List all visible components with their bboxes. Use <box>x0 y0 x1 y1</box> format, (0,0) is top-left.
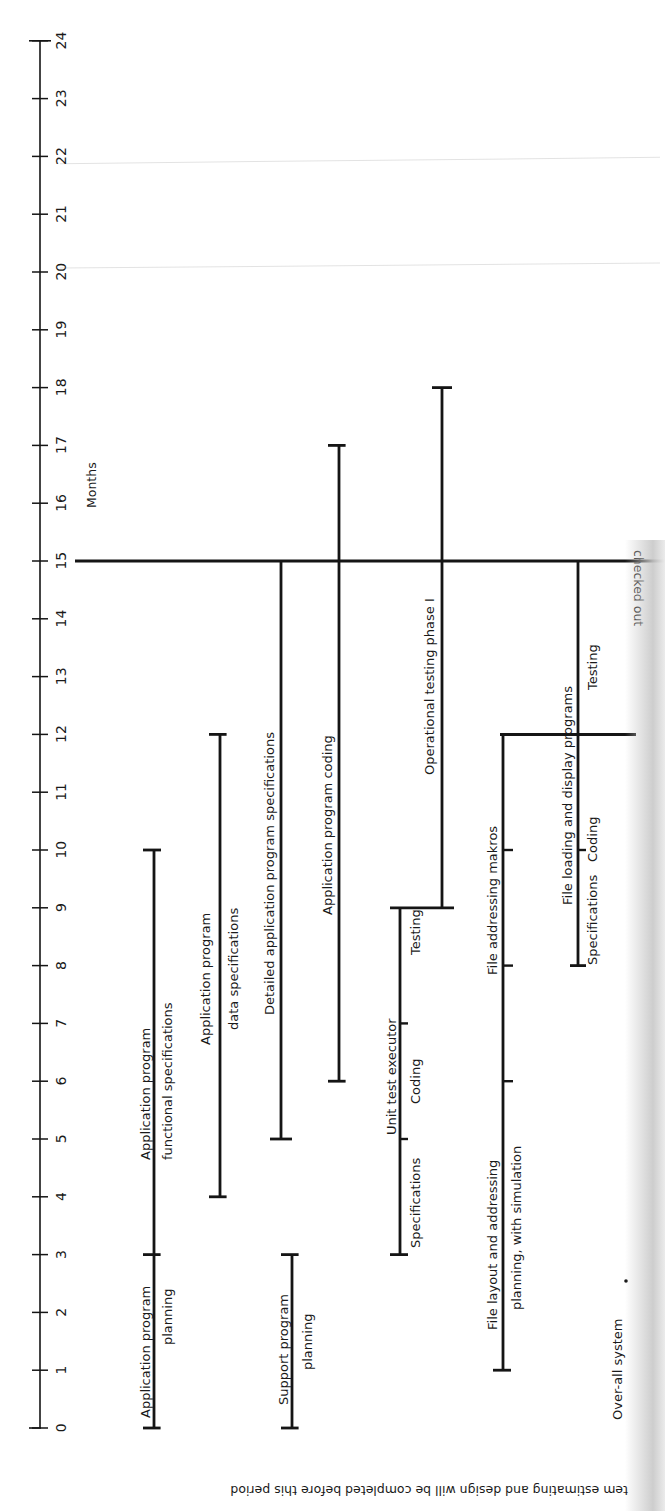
task-label: Over-all system <box>610 1319 625 1420</box>
task-label: File layout and addressing <box>485 1160 500 1330</box>
axis-tick-label: 2 <box>53 1308 69 1317</box>
phase-label: Testing <box>408 909 423 956</box>
axis-tick-label: 15 <box>53 552 69 570</box>
phase-label: Specifications <box>585 875 600 965</box>
axis-tick-label: 24 <box>53 31 69 49</box>
axis-tick-label: 6 <box>53 1077 69 1086</box>
axis-tick-label: 10 <box>53 841 69 859</box>
task-label: Application program <box>138 1028 153 1160</box>
axis-tick-label: 18 <box>53 378 69 396</box>
axis-tick-label: 4 <box>53 1192 69 1201</box>
task-label: Operational testing phase I <box>422 598 437 775</box>
axis-tick-label: 12 <box>53 725 69 743</box>
task-label: planning <box>160 1289 175 1345</box>
task-label: data specifications <box>226 908 241 1030</box>
axis-title: Months <box>84 462 99 508</box>
axis-tick-label: 14 <box>53 609 69 627</box>
axis-tick-label: 8 <box>53 961 69 970</box>
axis-tick-label: 20 <box>53 263 69 281</box>
axis-tick-label: 16 <box>53 494 69 512</box>
axis-tick-label: 0 <box>53 1423 69 1432</box>
phase-label: Testing <box>585 644 600 691</box>
task-label: planning <box>300 1314 315 1370</box>
task-label: Unit test executor <box>384 1018 399 1135</box>
axis-tick-label: 9 <box>53 903 69 912</box>
axis-tick-label: 17 <box>53 436 69 454</box>
axis-tick-label: 5 <box>53 1134 69 1143</box>
axis-tick-label: 21 <box>53 205 69 223</box>
phase-label: Coding <box>585 817 600 862</box>
phase-label: Coding <box>408 1059 423 1104</box>
axis-tick-label: 11 <box>53 783 69 801</box>
phase-label: Specifications <box>408 1158 423 1248</box>
page-edge-shadow <box>625 540 665 1511</box>
task-label: Support program <box>276 1294 291 1405</box>
task-label: File loading and display programs <box>560 686 575 905</box>
axis-tick-label: 3 <box>53 1250 69 1259</box>
axis-tick-label: 13 <box>53 667 69 685</box>
gantt-chart: 0123456789101112131415161718192021222324… <box>0 0 665 1511</box>
footnote: tem estimating and design will be comple… <box>230 1483 628 1498</box>
task-label: Application program <box>138 1286 153 1418</box>
task-label: Application program coding <box>320 735 335 915</box>
axis-tick-label: 1 <box>53 1366 69 1375</box>
axis-tick-label: 23 <box>53 89 69 107</box>
axis-tick-label: 19 <box>53 321 69 339</box>
task-label: File addressing makros <box>485 826 500 975</box>
task-label: Detailed application program specificati… <box>262 732 277 1015</box>
axis-tick-label: 22 <box>53 147 69 165</box>
task-label: Application program <box>198 913 213 1045</box>
task-label: planning, with simulation <box>509 1146 524 1310</box>
task-label: functional specifications <box>160 1002 175 1160</box>
axis-tick-label: 7 <box>53 1019 69 1028</box>
